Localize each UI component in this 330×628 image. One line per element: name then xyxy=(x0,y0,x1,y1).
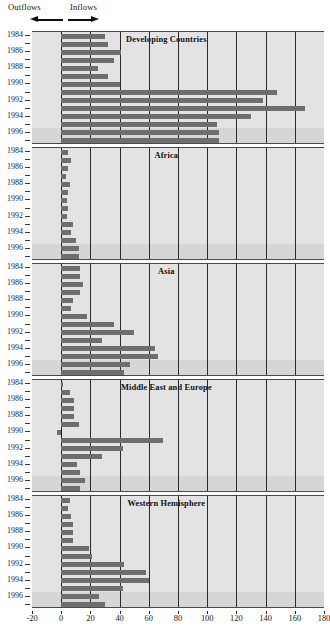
bar xyxy=(61,274,80,279)
bar xyxy=(61,354,157,359)
gridline-160 xyxy=(295,148,296,259)
bar xyxy=(61,546,89,551)
bar xyxy=(57,430,61,435)
y-axis-label: 1994 xyxy=(7,228,23,236)
bar xyxy=(61,586,122,591)
y-axis-label: 1988 xyxy=(7,179,23,187)
bar xyxy=(61,414,74,419)
panels-container: Developing Countries19841986198819901992… xyxy=(0,31,325,611)
arrow-left-icon xyxy=(30,16,63,23)
x-axis-tick-label: 120 xyxy=(230,614,243,623)
bar xyxy=(61,338,102,343)
gridline-40 xyxy=(120,380,121,491)
gridline-20 xyxy=(90,148,91,259)
bar xyxy=(61,150,68,155)
bar xyxy=(61,478,84,483)
bar xyxy=(61,34,105,39)
y-axis-label: 1992 xyxy=(7,560,23,568)
bar xyxy=(61,554,92,559)
gridline-80 xyxy=(178,148,179,259)
y-axis-label: 1988 xyxy=(7,63,23,71)
bar xyxy=(61,330,134,335)
y-axis-label: 1996 xyxy=(7,592,23,600)
x-axis-tick-label: 0 xyxy=(59,614,63,623)
bar xyxy=(61,106,305,111)
gridline-100 xyxy=(207,264,208,375)
bar xyxy=(61,514,71,519)
bar xyxy=(61,66,98,71)
bar xyxy=(61,578,149,583)
y-axis-label: 1988 xyxy=(7,527,23,535)
bar xyxy=(61,230,71,235)
bar xyxy=(61,214,67,219)
arrow-right-icon xyxy=(68,16,99,23)
bar xyxy=(61,298,73,303)
panel-title: Western Hemisphere xyxy=(127,499,205,508)
bar xyxy=(61,462,77,467)
bar xyxy=(61,114,251,119)
gridline-100 xyxy=(207,496,208,607)
panel-title: Africa xyxy=(154,151,178,160)
bar xyxy=(61,438,163,443)
y-axis-label: 1984 xyxy=(7,31,23,39)
y-axis-label: 1988 xyxy=(7,295,23,303)
panel-asia: Asia xyxy=(32,263,324,376)
x-axis-tick-label: -20 xyxy=(26,614,37,623)
bar xyxy=(61,166,68,171)
y-axis-label: 1988 xyxy=(7,411,23,419)
bar xyxy=(61,182,70,187)
bar xyxy=(61,222,73,227)
gridline-140 xyxy=(266,32,267,143)
bar xyxy=(61,50,121,55)
gridline-40 xyxy=(120,148,121,259)
inflows-label: Inflows xyxy=(70,2,97,12)
gridline-160 xyxy=(295,380,296,491)
y-axis-label: 1984 xyxy=(7,495,23,503)
gridline-120 xyxy=(236,380,237,491)
bar xyxy=(61,346,154,351)
y-axis-label: 1994 xyxy=(7,112,23,120)
gridline-120 xyxy=(236,264,237,375)
y-axis-label: 1984 xyxy=(7,147,23,155)
y-axis-label: 1986 xyxy=(7,47,23,55)
bar xyxy=(61,570,146,575)
gridline-120 xyxy=(236,148,237,259)
gridline-120 xyxy=(236,496,237,607)
y-axis-label: 1994 xyxy=(7,460,23,468)
flow-direction-legend: Outflows Inflows xyxy=(0,0,325,30)
bar xyxy=(61,382,62,387)
x-axis-tick-label: 180 xyxy=(318,614,330,623)
gridline-60 xyxy=(149,496,150,607)
bar xyxy=(61,138,219,143)
y-axis-label: 1986 xyxy=(7,163,23,171)
bar xyxy=(61,206,68,211)
bar xyxy=(61,198,67,203)
y-axis: 1984198619881990199219941996 xyxy=(0,31,32,144)
gridline-80 xyxy=(178,496,179,607)
y-axis-label: 1990 xyxy=(7,311,23,319)
gridline-60 xyxy=(149,380,150,491)
gridline-80 xyxy=(178,380,179,491)
bar xyxy=(61,90,277,95)
y-axis: 1984198619881990199219941996 xyxy=(0,379,32,492)
y-axis: 1984198619881990199219941996 xyxy=(0,495,32,608)
bar xyxy=(61,538,73,543)
x-axis-tick-label: 40 xyxy=(115,614,123,623)
bar xyxy=(61,498,70,503)
y-axis-label: 1986 xyxy=(7,279,23,287)
gridline-160 xyxy=(295,32,296,143)
gridline-20 xyxy=(90,380,91,491)
bar xyxy=(61,530,73,535)
y-axis-label: 1984 xyxy=(7,379,23,387)
bar xyxy=(61,594,99,599)
gridline-100 xyxy=(207,148,208,259)
gridline-140 xyxy=(266,380,267,491)
x-axis-tick-label: 100 xyxy=(201,614,214,623)
x-axis-tick-label: 160 xyxy=(289,614,302,623)
y-axis-label: 1990 xyxy=(7,79,23,87)
gridline-140 xyxy=(266,148,267,259)
gridline-60 xyxy=(149,148,150,259)
gridline-140 xyxy=(266,264,267,375)
bar xyxy=(61,82,119,87)
